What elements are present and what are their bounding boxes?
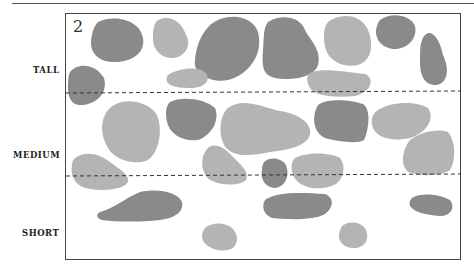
short-row-blobs: [97, 190, 452, 250]
blob-dark: [195, 17, 260, 81]
blob-dark: [262, 158, 288, 188]
blob-dark: [166, 99, 216, 141]
blob-dark: [263, 17, 319, 79]
blob-dark: [68, 66, 105, 105]
blob-light: [221, 103, 311, 155]
blob-light: [72, 154, 129, 190]
blob-light: [324, 16, 371, 66]
blob-dark: [420, 33, 447, 85]
medium-row-blobs: [72, 99, 455, 190]
blob-dark: [97, 190, 182, 221]
blob-light: [339, 223, 367, 248]
blob-dark: [91, 19, 143, 63]
blob-light: [167, 68, 208, 88]
blob-diagram: [0, 0, 474, 268]
blob-dark: [376, 15, 416, 49]
blob-dark: [410, 194, 453, 216]
blob-light: [292, 154, 344, 189]
blob-light: [102, 101, 160, 162]
blob-light: [202, 224, 237, 251]
divider-tall-medium: [66, 91, 461, 93]
blob-dark: [314, 100, 368, 142]
blob-light: [307, 70, 371, 96]
blob-light: [153, 18, 188, 58]
blob-dark: [263, 193, 332, 219]
